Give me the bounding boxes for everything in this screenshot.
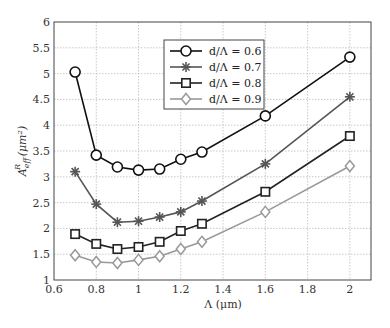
asterisk-marker [91,199,101,209]
square-marker [113,245,121,253]
square-marker [182,79,190,87]
legend-label: d/Λ = 0.6 [209,45,261,58]
square-marker [346,132,354,140]
diamond-marker [155,251,164,262]
x-tick-label: 1 [135,283,142,296]
diamond-marker [176,244,185,255]
x-tick-label: 2 [346,283,353,296]
diamond-marker [92,256,101,267]
x-axis-label: Λ (μm) [203,298,242,311]
asterisk-marker [112,217,122,227]
y-tick-label: 2 [43,222,50,235]
diamond-marker [134,254,143,265]
asterisk-marker [70,167,80,177]
y-tick-label: 3 [43,171,50,184]
square-marker [261,188,269,196]
asterisk-marker [181,62,191,72]
square-marker [177,227,185,235]
diamond-marker [71,250,80,261]
legend-label: d/Λ = 0.7 [209,61,261,74]
x-tick-label: 1.8 [299,283,317,296]
circle-marker [134,165,144,175]
asterisk-marker [260,159,270,169]
square-marker [71,230,79,238]
y-tick-label: 5 [43,68,50,81]
legend-item: d/Λ = 0.6 [170,45,261,58]
asterisk-marker [345,92,355,102]
circle-marker [70,67,80,77]
x-tick-label: 1.2 [172,283,190,296]
circle-marker [345,52,355,62]
circle-marker [260,111,270,121]
y-tick-label: 4 [43,119,50,132]
chart: 0.60.811.21.41.61.8211.522.533.544.555.5… [0,0,390,328]
series-line [71,132,354,253]
y-tick-label: 1 [43,274,50,287]
circle-marker [176,154,186,164]
asterisk-marker [134,216,144,226]
square-marker [155,238,163,246]
circle-marker [197,147,207,157]
circle-marker [91,150,101,160]
svg-text:AeffR (μm²): AeffR (μm²) [13,126,31,177]
x-tick-label: 1.6 [257,283,275,296]
x-tick-label: 1.4 [214,283,232,296]
square-marker [198,220,206,228]
diamond-marker [261,206,270,217]
square-marker [134,243,142,251]
circle-marker [181,46,191,56]
x-tick-label: 0.8 [88,283,106,296]
asterisk-marker [176,207,186,217]
asterisk-marker [197,196,207,206]
legend-label: d/Λ = 0.8 [209,77,261,90]
diamond-marker [197,236,206,247]
y-tick-label: 5.5 [33,42,51,55]
diamond-marker [113,257,122,268]
y-axis-label: AeffR (μm²) [13,126,31,177]
series-line [70,92,355,227]
legend: d/Λ = 0.6d/Λ = 0.7d/Λ = 0.8d/Λ = 0.9 [164,40,264,109]
asterisk-marker [155,212,165,222]
legend-label: d/Λ = 0.9 [209,93,261,106]
y-tick-label: 6 [43,16,50,29]
circle-marker [112,162,122,172]
y-tick-label: 3.5 [33,145,51,158]
square-marker [92,240,100,248]
y-tick-label: 1.5 [33,248,51,261]
circle-marker [155,164,165,174]
y-tick-label: 2.5 [33,197,51,210]
diamond-marker [345,160,354,171]
y-tick-label: 4.5 [33,93,51,106]
